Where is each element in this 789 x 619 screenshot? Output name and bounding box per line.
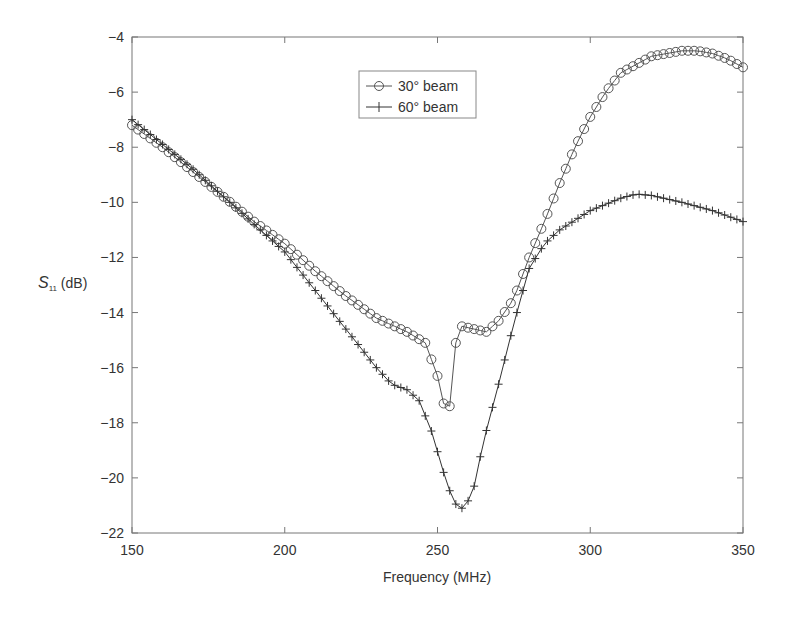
x-tick-label: 300 — [579, 542, 603, 558]
x-tick-label: 150 — [120, 542, 144, 558]
s11-frequency-chart: 150200250300350 −22−20−18−16−14−12−10−8−… — [0, 0, 789, 619]
y-tick-label: −8 — [108, 139, 124, 155]
x-tick-label: 200 — [273, 542, 297, 558]
y-tick-label: −6 — [108, 84, 124, 100]
y-tick-label: −22 — [100, 525, 124, 541]
y-tick-label: −12 — [100, 249, 124, 265]
y-axis-title: S11 (dB) — [38, 274, 87, 293]
y-tick-label: −18 — [100, 415, 124, 431]
y-tick-label: −20 — [100, 470, 124, 486]
x-tick-label: 350 — [731, 542, 755, 558]
y-tick-label: −10 — [100, 194, 124, 210]
x-tick-label: 250 — [426, 542, 450, 558]
y-tick-label: −16 — [100, 360, 124, 376]
svg-text:30° beam: 30° beam — [398, 78, 458, 94]
legend: 30° beam 60° beam — [359, 71, 476, 118]
y-tick-label: −14 — [100, 305, 124, 321]
y-tick-label: −4 — [108, 29, 124, 45]
svg-text:60° beam: 60° beam — [398, 99, 458, 115]
series-plus — [128, 116, 747, 513]
x-axis-title: Frequency (MHz) — [383, 569, 491, 585]
